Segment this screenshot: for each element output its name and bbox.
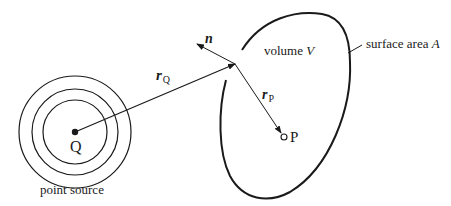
surface-label: surface area A xyxy=(366,37,440,50)
n-label: n xyxy=(205,32,213,46)
source-caption: point source xyxy=(40,183,104,196)
point-label: P xyxy=(290,130,298,145)
rQ-label: rQ xyxy=(156,68,170,85)
vector-rQ xyxy=(75,64,235,132)
vector-n xyxy=(197,44,235,64)
volume-label: volume V xyxy=(264,44,314,57)
rP-label: rP xyxy=(262,88,274,104)
source-label: Q xyxy=(70,139,82,155)
vector-rP xyxy=(235,64,281,133)
diagram-canvas: Q point source rQ n rP volume V surface … xyxy=(0,0,451,206)
surface-boundary-right xyxy=(220,62,350,199)
observation-point-icon xyxy=(281,134,287,140)
diagram-graphics xyxy=(0,0,451,206)
